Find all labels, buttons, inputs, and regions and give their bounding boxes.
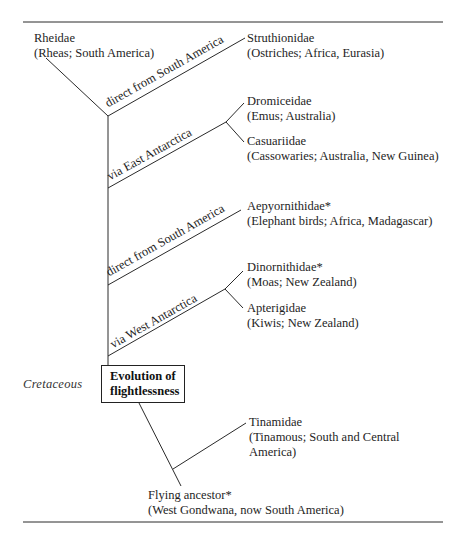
taxon-desc: (Cassowaries; Australia, New Guinea) [247, 149, 439, 164]
evolution-of-flightlessness-box: Evolution of flightlessness [101, 365, 185, 403]
branch-dinornithidae [225, 271, 243, 289]
taxon-name: Rheidae [34, 31, 154, 46]
tree-lines [0, 0, 472, 545]
taxon-dinornithidae: Dinornithidae* (Moas; New Zealand) [247, 260, 357, 290]
taxon-desc: (Tinamous; South and Central [249, 430, 400, 445]
taxon-dromiceidae: Dromiceidae (Emus; Australia) [247, 94, 336, 124]
branch-apterigidae [225, 289, 243, 308]
root-flying-ancestor: Flying ancestor* (West Gondwana, now Sou… [148, 488, 344, 518]
branch-rheidae [46, 58, 108, 116]
branch-casuariidae [226, 122, 244, 142]
taxon-name: Struthionidae [247, 31, 384, 46]
taxon-name: Aepyornithidae* [247, 199, 432, 214]
taxon-desc: (Rheas; South America) [34, 46, 154, 61]
taxon-name: Dinornithidae* [247, 260, 357, 275]
taxon-aepyornithidae: Aepyornithidae* (Elephant birds; Africa,… [247, 199, 432, 229]
taxon-desc: (Elephant birds; Africa, Madagascar) [247, 214, 432, 229]
root-name: Flying ancestor* [148, 488, 344, 503]
taxon-casuariidae: Casuariidae (Cassowaries; Australia, New… [247, 134, 439, 164]
branch-tinamidae [173, 423, 246, 469]
taxon-name: Tinamidae [249, 415, 400, 430]
root-desc: (West Gondwana, now South America) [148, 503, 344, 518]
taxon-desc: (Ostriches; Africa, Eurasia) [247, 46, 384, 61]
box-line-1: Evolution of [110, 369, 184, 384]
taxon-name: Casuariidae [247, 134, 439, 149]
branch-root [139, 403, 181, 486]
branch-east-antarctica [108, 122, 226, 188]
branch-dromiceidae [226, 103, 244, 122]
taxon-desc: (Moas; New Zealand) [247, 275, 357, 290]
box-line-2: flightlessness [110, 384, 184, 399]
phylogeny-diagram: Rheidae (Rheas; South America) Struthion… [0, 0, 472, 545]
taxon-desc: (Kiwis; New Zealand) [247, 316, 359, 331]
era-label-cretaceous: Cretaceous [23, 377, 82, 392]
taxon-name: Apterigidae [247, 301, 359, 316]
branch-aepyornithidae [108, 210, 241, 285]
taxon-desc: (Emus; Australia) [247, 109, 336, 124]
taxon-rheidae: Rheidae (Rheas; South America) [34, 31, 154, 61]
taxon-tinamidae: Tinamidae (Tinamous; South and Central A… [249, 415, 400, 460]
taxon-apterigidae: Apterigidae (Kiwis; New Zealand) [247, 301, 359, 331]
taxon-name: Dromiceidae [247, 94, 336, 109]
taxon-desc-cont: America) [249, 445, 400, 460]
taxon-struthionidae: Struthionidae (Ostriches; Africa, Eurasi… [247, 31, 384, 61]
